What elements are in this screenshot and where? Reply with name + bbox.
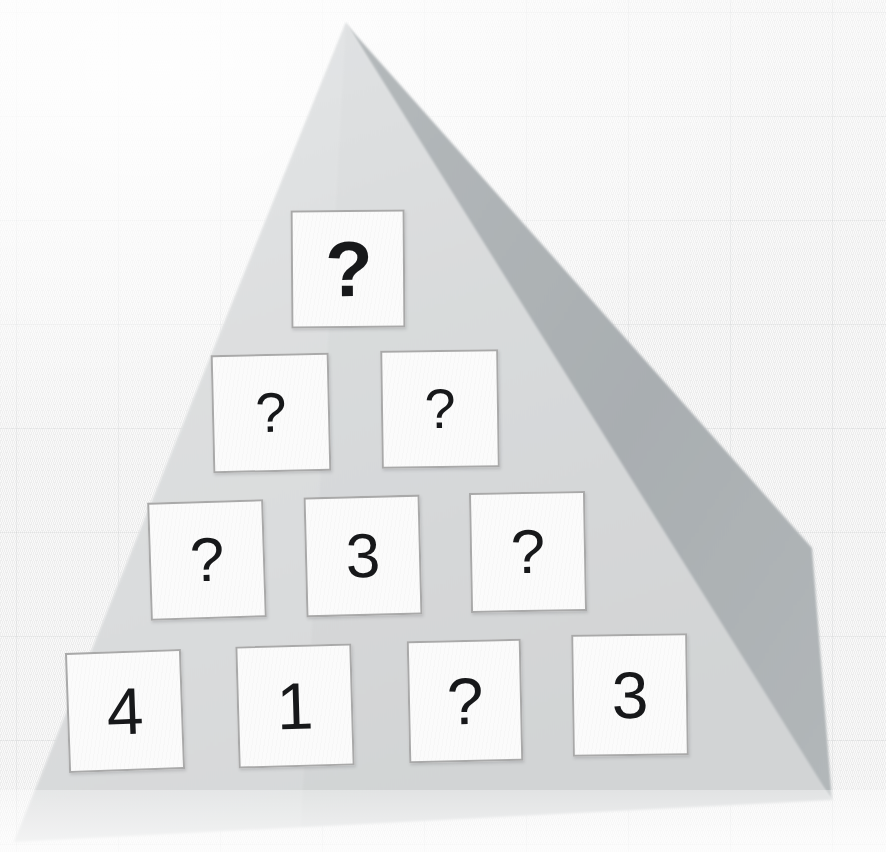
card-unknown-icon: ? xyxy=(189,528,225,591)
card-number: 3 xyxy=(345,525,381,588)
card-unknown-icon: ? xyxy=(446,668,484,735)
card-number: 4 xyxy=(106,677,145,744)
pyramid-card-r4-c4[interactable]: 3 xyxy=(571,633,689,757)
card-number: 1 xyxy=(276,673,315,740)
pyramid-card-r3-c3[interactable]: ? xyxy=(469,491,587,613)
pyramid-card-r2-c1[interactable]: ? xyxy=(211,353,332,474)
pyramid-card-r3-c2[interactable]: 3 xyxy=(304,495,423,618)
pyramid-card-r3-c1[interactable]: ? xyxy=(147,499,267,621)
card-unknown-icon: ? xyxy=(325,230,371,308)
card-unknown-icon: ? xyxy=(510,521,546,584)
card-number: 3 xyxy=(611,662,649,729)
pyramid-card-r4-c1[interactable]: 4 xyxy=(65,649,185,773)
pyramid-card-r4-c3[interactable]: ? xyxy=(407,639,524,763)
card-unknown-icon: ? xyxy=(424,381,456,437)
card-unknown-icon: ? xyxy=(255,385,287,442)
pyramid-card-r1-c1[interactable]: ? xyxy=(291,210,406,329)
pyramid-card-r4-c2[interactable]: 1 xyxy=(235,643,354,768)
pyramid-card-r2-c2[interactable]: ? xyxy=(380,349,500,469)
scene-root: ????3?41?3 xyxy=(0,0,886,852)
